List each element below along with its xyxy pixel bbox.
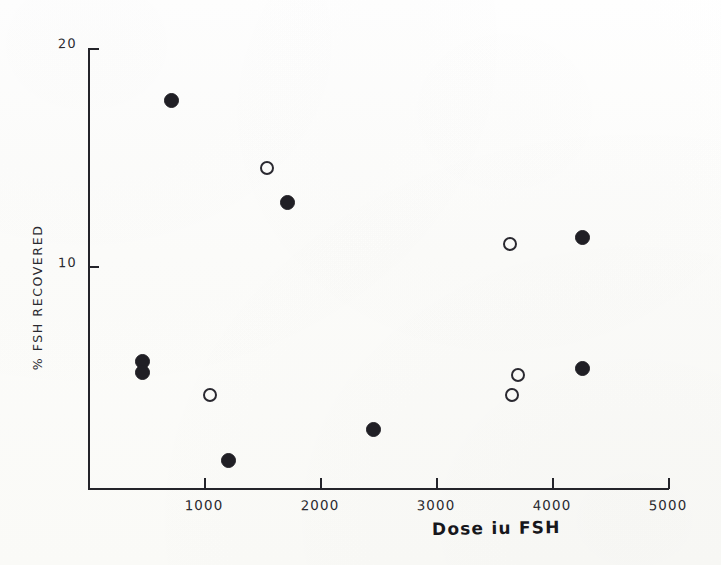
scatter-plot-figure: 20 10 % FSH RECOVERED 1000 2000 3000 400…: [0, 0, 721, 565]
x-axis-tick-5000: [668, 478, 670, 489]
x-axis-tick-label-2000: 2000: [290, 497, 350, 514]
data-point-filled-2: [575, 230, 590, 245]
data-point-filled-4: [135, 365, 150, 380]
x-axis-tick-1000: [204, 478, 206, 489]
y-axis-tick-10: [88, 266, 99, 268]
y-axis-tick-20: [88, 48, 99, 50]
data-point-filled-0: [164, 93, 179, 108]
x-axis-tick-3000: [436, 478, 438, 489]
data-point-filled-6: [366, 422, 381, 437]
plot-area: 20 10 % FSH RECOVERED 1000 2000 3000 400…: [0, 0, 721, 565]
data-point-filled-1: [280, 195, 295, 210]
y-axis-tick-label-10: 10: [58, 255, 77, 270]
data-point-filled-7: [575, 361, 590, 376]
data-point-open-1: [503, 237, 517, 251]
x-axis-title: Dose iu FSH: [432, 517, 561, 539]
data-point-open-0: [260, 161, 274, 175]
y-axis-line: [88, 48, 90, 489]
y-axis-tick-label-20: 20: [58, 36, 77, 51]
data-point-open-2: [203, 388, 217, 402]
x-axis-tick-label-1000: 1000: [174, 497, 234, 514]
x-axis-tick-2000: [320, 478, 322, 489]
x-axis-tick-label-3000: 3000: [406, 497, 466, 514]
data-point-open-3: [511, 368, 525, 382]
x-axis-tick-label-5000: 5000: [638, 497, 698, 514]
data-point-filled-5: [221, 453, 236, 468]
y-axis-title: % FSH RECOVERED: [30, 198, 45, 398]
x-axis-tick-label-4000: 4000: [522, 497, 582, 514]
data-point-open-4: [505, 388, 519, 402]
x-axis-line: [88, 488, 669, 490]
x-axis-tick-4000: [552, 478, 554, 489]
